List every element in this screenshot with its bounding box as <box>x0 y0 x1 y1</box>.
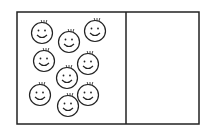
smiley-face-icon <box>58 93 79 117</box>
smiley-face-icon <box>78 82 99 106</box>
smiley-face-icon <box>57 65 78 89</box>
smiley-face-icon <box>34 48 55 72</box>
smiley-face-icon <box>59 29 80 53</box>
smiley-face-icon <box>85 18 106 42</box>
smiley-faces-group <box>30 18 106 117</box>
smiley-face-icon <box>30 82 51 106</box>
smiley-face-icon <box>32 20 53 44</box>
diagram-canvas <box>0 0 211 131</box>
smiley-face-icon <box>78 51 99 75</box>
